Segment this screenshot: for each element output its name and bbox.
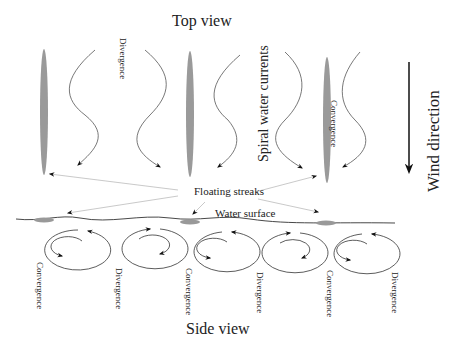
spiral-currents-label: Spiral water currents (256, 45, 272, 162)
circulation-cell-4 (262, 233, 328, 273)
top-divergence-label: Divergence (118, 38, 128, 79)
top-view-title: Top view (172, 12, 232, 30)
wind-direction-label: Wind direction (424, 90, 444, 192)
circulation-cell-1 (45, 230, 111, 270)
current-4 (276, 52, 302, 168)
side-view-title: Side view (186, 320, 250, 338)
circulation-cell-5 (334, 234, 400, 274)
streak-1 (40, 49, 48, 175)
current-5 (342, 52, 366, 167)
side-label-5: Convergence (325, 270, 335, 317)
side-label-2: Divergence (114, 268, 124, 309)
water-surface-line (16, 217, 395, 223)
side-label-6: Divergence (390, 272, 400, 313)
floating-streaks-label: Floating streaks (194, 185, 264, 197)
top-convergence-label: Convergence (329, 100, 339, 147)
streak-2 (186, 51, 194, 177)
langmuir-circulation-diagram (0, 0, 453, 349)
current-2 (137, 50, 166, 167)
water-surface-label: Water surface (215, 207, 276, 219)
circulation-cell-3 (194, 232, 260, 272)
current-3 (214, 55, 240, 167)
side-label-3: Convergence (184, 268, 194, 315)
current-1 (69, 50, 98, 165)
side-label-1: Convergence (35, 262, 45, 309)
side-label-4: Divergence (255, 272, 265, 313)
circulation-cell-2 (122, 229, 188, 269)
